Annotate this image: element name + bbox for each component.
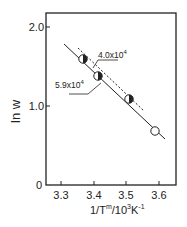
x-tick-label: 3.3: [53, 189, 68, 201]
x-tick-label: 3.6: [151, 189, 166, 201]
annotation-lower: 5.9x104: [55, 79, 85, 90]
x-axis-title: 1/Tm/103K-1: [90, 203, 145, 216]
y-tick-label: 2.0: [29, 21, 44, 33]
x-tick-label: 3.4: [86, 189, 101, 201]
data-point: [125, 95, 133, 103]
plot-frame: [46, 13, 176, 185]
data-point: [94, 72, 102, 80]
data-point-open: [151, 127, 159, 135]
y-axis-title: ln w: [1, 103, 31, 123]
leader-line: [88, 83, 101, 94]
data-point: [79, 55, 87, 63]
leader-line: [93, 60, 98, 68]
x-tick-label: 3.5: [118, 189, 133, 201]
y-tick-label: 0: [36, 179, 42, 191]
annotation-upper: 4.0x104: [98, 49, 128, 60]
